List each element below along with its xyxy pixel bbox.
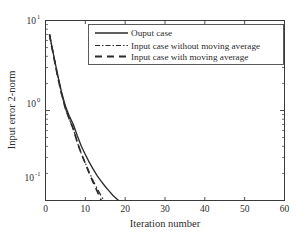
y-tick-label-10e1-exp: 1: [37, 13, 40, 20]
semilog-line-chart: 0102030405060 10 1 10 0 10 -1 Iteration …: [0, 0, 307, 249]
x-tick-label: 0: [43, 204, 48, 214]
x-tick-label: 60: [280, 204, 290, 214]
figure-container: 0102030405060 10 1 10 0 10 -1 Iteration …: [0, 0, 307, 249]
legend-label-2: Input case without moving average: [131, 41, 260, 51]
legend: Ouput caseInput case without moving aver…: [89, 25, 284, 65]
y-tick-label-10e0-base: 10: [27, 99, 37, 109]
x-tick-label: 20: [120, 204, 130, 214]
x-tick-label: 50: [240, 204, 250, 214]
y-tick-label-10e0-exp: 0: [37, 96, 40, 103]
x-tick-label: 30: [160, 204, 170, 214]
y-tick-label-10e1-base: 10: [27, 16, 37, 26]
x-tick-label: 40: [200, 204, 210, 214]
legend-label-1: Ouput case: [131, 28, 172, 38]
y-tick-label-10e-1-exp: -1: [35, 170, 40, 177]
x-axis-title: Iteration number: [130, 218, 201, 229]
x-tick-label: 10: [81, 204, 91, 214]
legend-label-3: Input case with moving average: [131, 52, 248, 62]
y-tick-label-10e-1-base: 10: [25, 173, 35, 183]
y-axis-title: Input error 2-norm: [6, 71, 17, 150]
